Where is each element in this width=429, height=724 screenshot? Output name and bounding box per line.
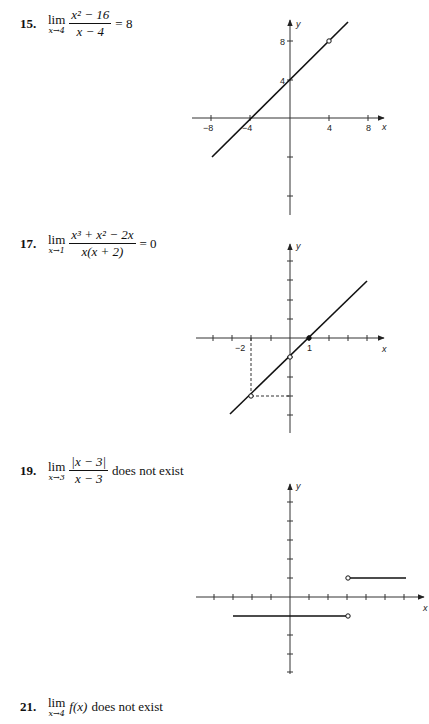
open-point: [327, 39, 331, 43]
tick-label: 4: [280, 76, 285, 86]
x-axis-label: x: [422, 603, 428, 613]
open-point: [288, 355, 292, 359]
graph-17: [196, 244, 384, 433]
graph-15: [192, 20, 384, 215]
x-axis-label: x: [381, 122, 387, 132]
tick-label: −4: [242, 123, 252, 133]
x-axis-label: x: [381, 344, 387, 354]
open-point: [346, 614, 350, 618]
tick-label: 4: [327, 123, 332, 133]
tick-label: −8: [203, 123, 213, 133]
tick-label: −2: [235, 343, 245, 353]
y-axis-label: y: [295, 19, 301, 29]
tick-label: 8: [366, 123, 371, 133]
open-point: [249, 394, 253, 398]
closed-point: [307, 336, 311, 340]
open-point: [346, 576, 350, 580]
tick-label: 1: [307, 343, 312, 353]
y-axis-label: y: [295, 241, 301, 251]
tick-label: 8: [280, 37, 285, 47]
graphs-canvas: −8 −4 4 8 4 8 x y −2 1 x y: [0, 0, 429, 724]
y-axis-label: y: [295, 481, 301, 491]
graph-19: [196, 484, 424, 674]
